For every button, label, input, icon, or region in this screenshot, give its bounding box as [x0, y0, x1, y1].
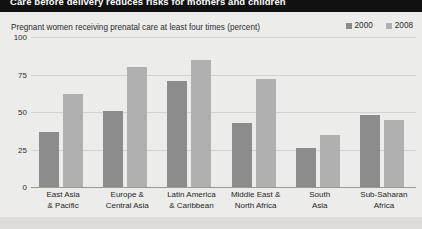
bar-2008[interactable]	[63, 94, 83, 187]
y-axis-tick: 0	[23, 183, 27, 192]
bar-group	[95, 37, 159, 187]
bar-2000[interactable]	[360, 115, 380, 187]
bar-2000[interactable]	[167, 81, 187, 188]
bar-2000[interactable]	[103, 111, 123, 188]
bar-2000[interactable]	[296, 148, 316, 187]
y-axis-tick: 75	[18, 70, 27, 79]
y-axis-tick: 100	[14, 33, 27, 42]
bar-2000[interactable]	[232, 123, 252, 188]
bar-group	[31, 37, 95, 187]
plot-area: 0255075100 East Asia & PacificEurope & C…	[0, 37, 422, 217]
legend-label-2008: 2008	[395, 22, 413, 30]
chart-legend: 2000 2008	[346, 22, 413, 30]
chart-panel: Pregnant women receiving prenatal care a…	[0, 12, 422, 217]
legend-item-2000[interactable]: 2000	[346, 22, 373, 30]
page-title: Care before delivery reduces risks for m…	[10, 0, 286, 7]
axis-baseline	[31, 187, 416, 188]
x-axis-labels: East Asia & PacificEurope & Central Asia…	[31, 190, 416, 216]
legend-item-2008[interactable]: 2008	[386, 22, 413, 30]
x-axis-tick-label: East Asia & Pacific	[31, 190, 95, 211]
title-bar: Care before delivery reduces risks for m…	[0, 0, 422, 12]
bar-2008[interactable]	[191, 60, 211, 188]
bars-area	[31, 37, 416, 187]
bar-2000[interactable]	[39, 132, 59, 188]
x-axis-tick-label: Sub-Saharan Africa	[352, 190, 416, 211]
bar-2008[interactable]	[384, 120, 404, 188]
x-axis-tick-label: Latin America & Caribbean	[159, 190, 223, 211]
x-axis-tick-label: Europe & Central Asia	[95, 190, 159, 211]
bar-group	[288, 37, 352, 187]
x-axis-tick-label: Middle East & North Africa	[224, 190, 288, 211]
bar-group	[224, 37, 288, 187]
legend-swatch-icon-2000	[346, 23, 352, 29]
bar-group	[352, 37, 416, 187]
bar-2008[interactable]	[320, 135, 340, 188]
bar-2008[interactable]	[256, 79, 276, 187]
bottom-band	[0, 217, 422, 229]
y-axis: 0255075100	[0, 37, 30, 187]
legend-swatch-icon-2008	[386, 23, 392, 29]
y-axis-tick: 50	[18, 108, 27, 117]
x-axis-tick-label: South Asia	[288, 190, 352, 211]
bar-2008[interactable]	[127, 67, 147, 187]
bar-group	[159, 37, 223, 187]
legend-label-2000: 2000	[355, 22, 373, 30]
chart-subtitle: Pregnant women receiving prenatal care a…	[11, 23, 260, 32]
y-axis-tick: 25	[18, 145, 27, 154]
